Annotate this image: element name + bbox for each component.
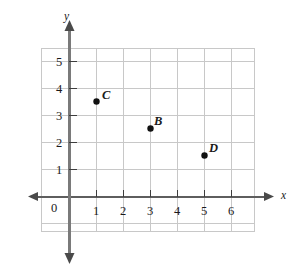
y-tick-label-4: 4 bbox=[56, 83, 62, 96]
origin-label: 0 bbox=[51, 202, 57, 215]
x-tick-label-6: 6 bbox=[228, 205, 234, 218]
arrow-down-icon bbox=[65, 253, 75, 264]
y-tick-label-2: 2 bbox=[56, 137, 62, 150]
arrow-left-icon bbox=[28, 192, 38, 201]
y-tick-label-3: 3 bbox=[56, 110, 62, 123]
point-marker-b bbox=[147, 125, 153, 131]
coordinate-plane-figure: y x 0 1 2 3 4 5 6 1 2 3 4 5 C B D bbox=[0, 0, 299, 268]
y-axis-label: y bbox=[64, 11, 69, 23]
graph-canvas bbox=[0, 0, 299, 268]
point-label-d: D bbox=[209, 142, 218, 155]
x-axis-label: x bbox=[281, 190, 286, 202]
point-label-b: B bbox=[154, 115, 162, 128]
point-marker-c bbox=[93, 98, 99, 104]
x-tick-label-2: 2 bbox=[120, 205, 126, 218]
y-tick-label-5: 5 bbox=[56, 56, 62, 69]
point-marker-d bbox=[201, 152, 207, 158]
point-label-c: C bbox=[102, 89, 110, 102]
x-tick-label-5: 5 bbox=[201, 205, 207, 218]
x-tick-label-3: 3 bbox=[147, 205, 153, 218]
y-tick-label-1: 1 bbox=[56, 164, 62, 177]
arrow-right-icon bbox=[264, 192, 274, 201]
x-tick-label-4: 4 bbox=[174, 205, 180, 218]
x-tick-label-1: 1 bbox=[93, 205, 99, 218]
